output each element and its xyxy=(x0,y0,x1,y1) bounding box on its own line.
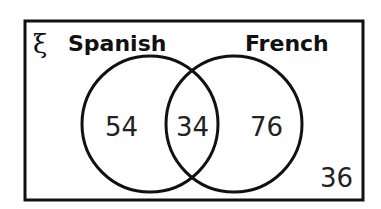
intersection-value: 34 xyxy=(176,112,209,142)
outside-value: 36 xyxy=(320,163,353,193)
venn-diagram: ξ Spanish French 54 34 76 36 xyxy=(0,0,381,209)
french-label: French xyxy=(245,31,329,56)
spanish-only-value: 54 xyxy=(105,112,138,142)
french-only-value: 76 xyxy=(250,112,283,142)
universal-set-symbol: ξ xyxy=(33,29,47,59)
spanish-label: Spanish xyxy=(68,31,166,56)
